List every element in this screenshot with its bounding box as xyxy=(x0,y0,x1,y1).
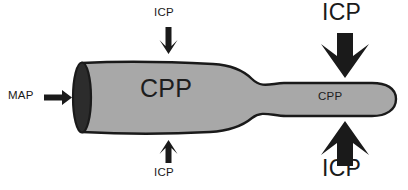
icp-bottom-left-arrow-icon xyxy=(160,140,178,163)
icp-top-right-label: ICP xyxy=(322,1,361,24)
icp-top-left-label: ICP xyxy=(154,7,174,19)
icp-top-left-arrow-icon xyxy=(160,27,178,54)
vessel-opening-ellipse xyxy=(73,63,91,133)
icp-bottom-left-label: ICP xyxy=(154,167,174,179)
cpp-body-label: CPP xyxy=(140,76,192,101)
map-arrow-icon xyxy=(44,90,72,105)
icp-top-right-arrow-icon xyxy=(321,33,369,78)
icp-bottom-right-label: ICP xyxy=(322,157,361,180)
cpp-neck-label: CPP xyxy=(318,91,342,103)
map-label: MAP xyxy=(8,90,34,102)
diagram-canvas: MAP CPP CPP ICP ICP ICP ICP xyxy=(0,0,408,190)
vessel-shape xyxy=(82,62,396,134)
